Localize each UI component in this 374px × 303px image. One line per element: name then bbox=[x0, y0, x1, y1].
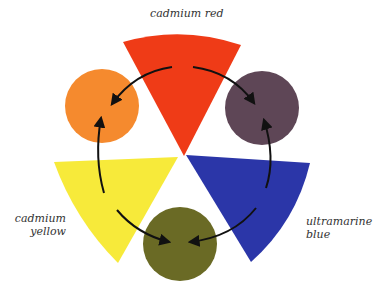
label-blue-line1: ultramarine bbox=[306, 215, 372, 228]
purple-circle bbox=[225, 71, 299, 145]
green-circle bbox=[143, 207, 217, 281]
label-yellow-line1: cadmium bbox=[14, 212, 66, 225]
label-red-text: cadmium red bbox=[150, 7, 224, 20]
red-wedge bbox=[123, 34, 241, 156]
label-ultramarine-blue: ultramarine blue bbox=[306, 215, 372, 241]
color-wheel-diagram bbox=[0, 0, 374, 303]
label-yellow-line2: yellow bbox=[14, 225, 66, 238]
label-blue-line2: blue bbox=[306, 228, 372, 241]
label-cadmium-red: cadmium red bbox=[150, 7, 224, 20]
label-cadmium-yellow: cadmium yellow bbox=[14, 212, 66, 238]
orange-circle bbox=[65, 69, 139, 143]
